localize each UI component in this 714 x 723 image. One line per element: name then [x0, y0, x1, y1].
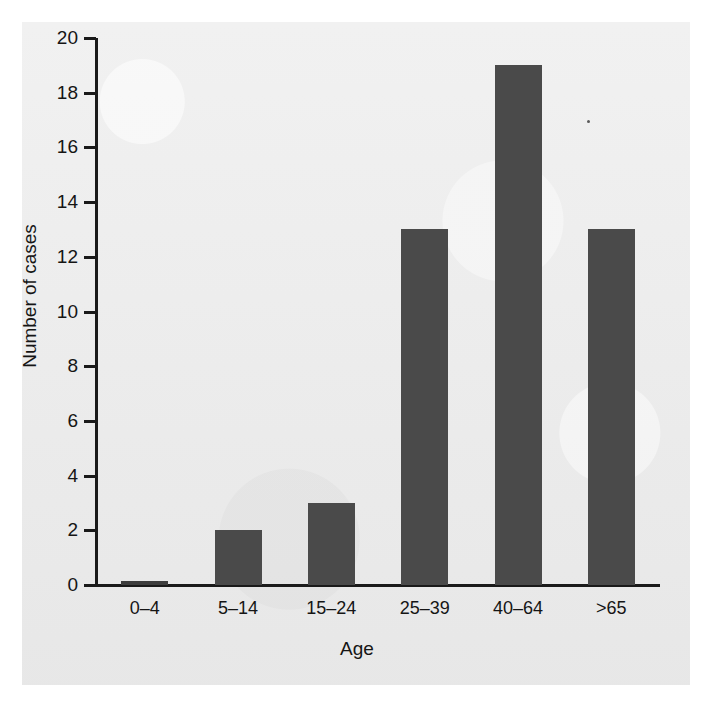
bar-fill [495, 65, 542, 585]
x-tick-label-25–39: 25–39 [378, 598, 471, 619]
y-tick-label: 18 [34, 83, 78, 102]
bar-chart: 02468101214161820 Number of cases 0–45–1… [0, 0, 714, 723]
x-axis-title: Age [0, 638, 714, 660]
bar-5–14 [215, 38, 262, 585]
bar-40–64 [495, 38, 542, 585]
bar-fill [121, 581, 168, 585]
bar-fill [308, 503, 355, 585]
y-tick-label: 2 [34, 520, 78, 539]
y-tick-mark [84, 365, 96, 368]
scanned-page: 02468101214161820 Number of cases 0–45–1… [0, 0, 714, 723]
y-tick-mark [84, 146, 96, 149]
x-tick-label-0–4: 0–4 [98, 598, 191, 619]
y-tick-mark [84, 475, 96, 478]
bar-15–24 [308, 38, 355, 585]
bar-fill [401, 229, 448, 585]
y-tick-label: 4 [34, 466, 78, 485]
y-tick-mark [84, 584, 96, 587]
x-tick-label-15–24: 15–24 [285, 598, 378, 619]
y-tick-mark [84, 529, 96, 532]
y-tick-mark [84, 37, 96, 40]
y-tick-mark [84, 311, 96, 314]
bar-25–39 [401, 38, 448, 585]
x-tick-label->65: >65 [565, 598, 658, 619]
bar-0–4 [121, 38, 168, 585]
bar-fill [215, 530, 262, 585]
y-tick-label: 6 [34, 411, 78, 430]
y-tick-mark [84, 420, 96, 423]
bar-fill [588, 229, 635, 585]
y-axis-title: Number of cases [19, 206, 41, 386]
y-tick-mark [84, 92, 96, 95]
y-tick-mark [84, 256, 96, 259]
x-tick-label-5–14: 5–14 [191, 598, 284, 619]
bar-series [98, 38, 658, 585]
y-tick-label: 16 [34, 137, 78, 156]
y-tick-label: 0 [34, 575, 78, 594]
scan-speck [587, 120, 590, 123]
y-tick-label: 20 [34, 28, 78, 47]
y-tick-mark [84, 201, 96, 204]
bar->65 [588, 38, 635, 585]
x-tick-label-40–64: 40–64 [471, 598, 564, 619]
